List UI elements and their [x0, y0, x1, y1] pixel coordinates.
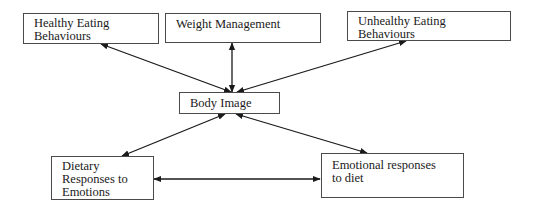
- node-label: Weight Management: [176, 18, 310, 31]
- node-dietary-responses-to-emotions: Dietary Responses to Emotions: [51, 156, 154, 200]
- node-label: Body Image: [190, 97, 269, 110]
- node-label: Healthy Eating Behaviours: [34, 17, 148, 43]
- node-body-image: Body Image: [179, 92, 280, 114]
- node-weight-management: Weight Management: [165, 13, 321, 43]
- node-label: Dietary Responses to Emotions: [62, 160, 143, 199]
- node-healthy-eating-behaviours: Healthy Eating Behaviours: [23, 13, 159, 44]
- node-emotional-responses-to-diet: Emotional responses to diet: [321, 153, 464, 198]
- edge-unhealthy-body-image: [237, 41, 406, 92]
- edge-healthy-body-image: [101, 44, 231, 92]
- node-label: Unhealthy Eating Behaviours: [358, 15, 500, 41]
- edge-body-image-emotional: [236, 114, 367, 153]
- node-label: Emotional responses to diet: [332, 159, 453, 185]
- node-unhealthy-eating-behaviours: Unhealthy Eating Behaviours: [347, 11, 511, 41]
- edge-body-image-dietary: [122, 114, 225, 156]
